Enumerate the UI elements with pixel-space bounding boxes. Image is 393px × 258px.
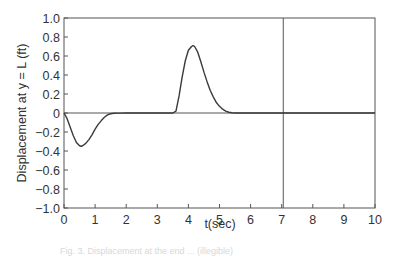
y-tick-label: −1.0 xyxy=(35,202,60,216)
x-tick-label: 9 xyxy=(340,213,347,227)
y-tick-label: 0.4 xyxy=(43,69,60,83)
y-tick-label: 0.6 xyxy=(43,50,60,64)
x-tick-label: 1 xyxy=(92,213,99,227)
x-tick-label: 8 xyxy=(309,213,316,227)
displacement-line xyxy=(64,46,375,147)
y-tick-label: −0.2 xyxy=(35,126,60,140)
y-axis-label: Displacement at y = L (ft) xyxy=(15,44,29,183)
x-tick-label: 10 xyxy=(368,213,382,227)
chart: 1.00.80.60.40.20−0.2−0.4−0.6−0.8−1.0 012… xyxy=(0,0,393,258)
y-tick-label: −0.4 xyxy=(35,145,60,159)
y-tick-label: −0.8 xyxy=(35,183,60,197)
x-tick-label: 2 xyxy=(123,213,130,227)
y-tick-label: −0.6 xyxy=(35,164,60,178)
y-axis: 1.00.80.60.40.20−0.2−0.4−0.6−0.8−1.0 xyxy=(35,12,68,216)
x-tick-label: 4 xyxy=(185,213,192,227)
x-axis-label: t(sec) xyxy=(204,217,235,231)
y-tick-label: 1.0 xyxy=(43,12,60,26)
y-tick-label: 0 xyxy=(53,107,60,121)
y-tick-label: 0.8 xyxy=(43,31,60,45)
y-tick-label: 0.2 xyxy=(43,88,60,102)
x-tick-label: 7 xyxy=(278,213,285,227)
x-tick-label: 0 xyxy=(61,213,68,227)
x-tick-label: 6 xyxy=(247,213,254,227)
figure-caption: Fig. 3. Displacement at the end ... (ill… xyxy=(60,246,233,256)
x-tick-label: 3 xyxy=(154,213,161,227)
